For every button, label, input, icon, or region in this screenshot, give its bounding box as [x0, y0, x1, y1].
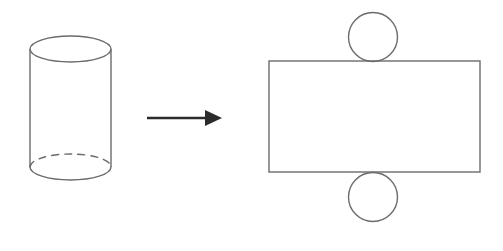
- transformation-arrow-icon: [147, 110, 222, 126]
- cylinder-top-ellipse: [30, 36, 111, 62]
- cylinder-bottom-back-arc: [30, 154, 111, 167]
- cylinder-net-figure: [269, 13, 480, 222]
- figure-canvas: Cylinder and its net A three-dimensional…: [0, 0, 503, 251]
- cylinder-bottom-front-arc: [30, 167, 111, 180]
- net-top-base-circle: [349, 13, 398, 62]
- cylinder-net-diagram: Cylinder and its net A three-dimensional…: [0, 0, 503, 251]
- net-lateral-surface-rectangle: [269, 61, 480, 172]
- arrow-head: [205, 110, 222, 126]
- net-bottom-base-circle: [349, 173, 398, 222]
- cylinder-figure: [30, 36, 111, 180]
